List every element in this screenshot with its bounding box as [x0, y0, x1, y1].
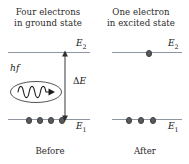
electron-dot — [48, 117, 55, 124]
left-lower-energy-label-text: E — [76, 121, 83, 131]
electron-dot — [146, 50, 153, 57]
electron-dot — [150, 117, 157, 124]
left-panel-title-line1: Four electrons — [4, 7, 92, 18]
right-lower-energy-label: E1 — [168, 121, 179, 133]
electron-dot — [26, 117, 33, 124]
electron-dot — [138, 117, 145, 124]
left-lower-energy-label: E1 — [76, 121, 87, 133]
right-panel-title-line2: in excited state — [97, 18, 185, 29]
photon-wave-icon — [9, 79, 63, 105]
right-upper-energy-label-sub: 2 — [175, 43, 179, 50]
left-lower-energy-label-sub: 1 — [83, 126, 87, 133]
right-lower-energy-level-line — [112, 119, 182, 121]
right-lower-energy-label-text: E — [168, 121, 175, 131]
left-upper-energy-label-text: E — [76, 38, 83, 48]
right-lower-energy-label-sub: 1 — [175, 126, 179, 133]
left-panel-title-line2: in ground state — [4, 18, 92, 29]
energy-symbol: E — [80, 76, 87, 86]
energy-gap-label: ΔE — [73, 76, 86, 86]
electron-dot — [126, 117, 133, 124]
energy-level-diagram: Four electrons in ground state One elect… — [0, 0, 189, 164]
photon-energy-label: hf — [10, 62, 19, 73]
left-panel-title: Four electrons in ground state — [4, 7, 92, 28]
electron-dot — [37, 117, 44, 124]
left-panel-caption: Before — [10, 146, 90, 156]
right-upper-energy-label-text: E — [168, 38, 175, 48]
right-panel-title: One electron in excited state — [97, 7, 185, 28]
right-panel-caption: After — [105, 146, 185, 156]
left-upper-energy-level-line — [8, 52, 90, 54]
left-upper-energy-label: E2 — [76, 38, 87, 50]
right-upper-energy-label: E2 — [168, 38, 179, 50]
right-panel-title-line1: One electron — [97, 7, 185, 18]
left-upper-energy-label-sub: 2 — [83, 43, 87, 50]
